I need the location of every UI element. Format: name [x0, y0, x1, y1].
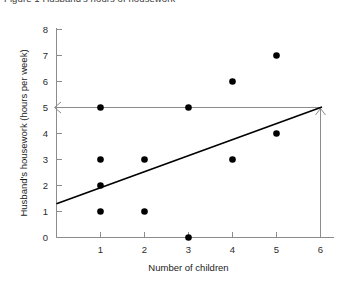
y-tick-label-4: 4 [43, 128, 48, 139]
y-tick-label-2: 2 [43, 180, 48, 191]
data-point [229, 156, 236, 163]
y-tick-labels: 0 1 2 3 4 5 6 7 8 [43, 24, 48, 243]
data-point [97, 208, 104, 215]
data-point [185, 234, 192, 241]
x-tick-label-1: 1 [98, 244, 103, 255]
x-tick-label-3: 3 [186, 244, 191, 255]
y-tick-label-1: 1 [43, 206, 48, 217]
data-point [273, 130, 280, 137]
data-point [141, 156, 148, 163]
x-axis-title: Number of children [148, 262, 228, 273]
y-tick-label-3: 3 [43, 154, 48, 165]
data-point [229, 78, 236, 85]
regression-line [57, 107, 323, 204]
x-tick-label-2: 2 [142, 244, 147, 255]
y-tick-label-6: 6 [43, 76, 48, 87]
x-tick-label-4: 4 [230, 244, 235, 255]
data-point [97, 104, 104, 111]
x-tick-label-6: 6 [318, 244, 323, 255]
prediction-guide [55, 102, 326, 238]
scatter-plot-canvas: 0 1 2 3 4 5 6 7 8 1 2 3 4 5 6 [0, 0, 354, 288]
data-point [97, 182, 104, 189]
y-tick-label-0: 0 [43, 232, 48, 243]
y-tick-marks [57, 30, 63, 238]
y-tick-label-8: 8 [43, 24, 48, 35]
data-point [97, 156, 104, 163]
data-point [141, 208, 148, 215]
figure-scatter-housework: Figure 1 Husband's hours of housework 0 … [0, 0, 354, 288]
data-point [273, 52, 280, 59]
scatter-points [97, 52, 280, 241]
y-axis-title: Husband's housework (hours per week) [18, 49, 29, 216]
x-tick-label-5: 5 [274, 244, 279, 255]
regression-line-group [57, 107, 323, 204]
y-tick-label-7: 7 [43, 50, 48, 61]
y-tick-label-5: 5 [43, 102, 48, 113]
data-point [185, 104, 192, 111]
x-tick-labels: 1 2 3 4 5 6 [98, 244, 323, 255]
